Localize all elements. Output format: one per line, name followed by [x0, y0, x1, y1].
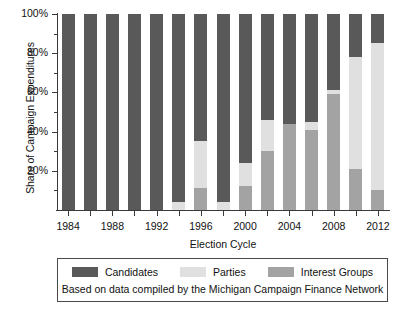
- x-axis-tick-label: 2000: [223, 220, 267, 232]
- x-axis-tick: [223, 211, 224, 216]
- y-axis-tick-label: 60%: [2, 86, 48, 96]
- x-axis-tick: [68, 211, 69, 216]
- bar-segment-parties: [305, 122, 318, 130]
- bar-segment-parties: [239, 163, 252, 187]
- y-axis-tick-label: 80%: [2, 47, 48, 57]
- y-axis-tick-label: 20%: [2, 165, 48, 175]
- legend-item-label: Interest Groups: [301, 266, 373, 278]
- plot-area: [57, 14, 389, 210]
- legend-swatch-icon: [268, 267, 294, 277]
- bar-segment-candidates: [62, 14, 75, 210]
- legend-swatch-icon: [180, 267, 206, 277]
- bar: [150, 14, 163, 210]
- bar-segment-candidates: [84, 14, 97, 210]
- bar: [371, 14, 384, 210]
- bar-segment-interest-groups: [327, 94, 340, 210]
- bar-segment-interest-groups: [239, 186, 252, 210]
- bar-segment-candidates: [217, 14, 230, 202]
- bar: [327, 14, 340, 210]
- bar: [283, 14, 296, 210]
- y-axis-tick-label: 40%: [2, 126, 48, 136]
- legend-caption: Based on data compiled by the Michigan C…: [58, 283, 387, 295]
- bar-segment-interest-groups: [261, 151, 274, 210]
- bar-segment-candidates: [371, 14, 384, 43]
- bar: [239, 14, 252, 210]
- x-axis-tick-label: 1984: [46, 220, 90, 232]
- bar: [194, 14, 207, 210]
- x-axis-tick-label: 1996: [179, 220, 223, 232]
- bar-segment-parties: [371, 43, 384, 190]
- bar-segment-parties: [217, 202, 230, 210]
- legend-entries: CandidatesPartiesInterest Groups: [58, 263, 387, 281]
- legend-item: Parties: [180, 266, 246, 278]
- bar: [128, 14, 141, 210]
- x-axis-tick: [356, 211, 357, 216]
- legend-item-label: Parties: [213, 266, 246, 278]
- bar-segment-candidates: [194, 14, 207, 141]
- legend-item: Interest Groups: [268, 266, 373, 278]
- bar: [172, 14, 185, 210]
- x-axis-tick: [334, 211, 335, 216]
- x-axis-tick-label: 2012: [356, 220, 400, 232]
- x-axis-tick: [179, 211, 180, 216]
- legend-item: Candidates: [72, 266, 158, 278]
- x-axis-title: Election Cycle: [57, 238, 389, 250]
- bar-segment-interest-groups: [349, 169, 362, 210]
- bar-segment-candidates: [261, 14, 274, 120]
- bar: [62, 14, 75, 210]
- bar-segment-candidates: [349, 14, 362, 57]
- bar-segment-candidates: [150, 14, 163, 210]
- bar-segment-candidates: [283, 14, 296, 124]
- x-axis-tick: [267, 211, 268, 216]
- bar-segment-interest-groups: [371, 190, 384, 210]
- bar-segment-candidates: [239, 14, 252, 163]
- x-axis-tick-label: 2008: [312, 220, 356, 232]
- bar-segment-candidates: [106, 14, 119, 210]
- bar-segment-parties: [172, 202, 185, 210]
- bar-segment-interest-groups: [305, 130, 318, 210]
- bar-segment-parties: [349, 57, 362, 169]
- x-axis-tick: [112, 211, 113, 216]
- bar: [217, 14, 230, 210]
- bar-segment-parties: [194, 141, 207, 188]
- x-axis-tick: [378, 211, 379, 216]
- x-axis-tick-label: 2004: [267, 220, 311, 232]
- bar: [261, 14, 274, 210]
- x-axis-tick: [201, 211, 202, 216]
- bar-segment-parties: [261, 120, 274, 151]
- bar: [106, 14, 119, 210]
- bar-segment-candidates: [128, 14, 141, 210]
- x-axis-tick: [289, 211, 290, 216]
- bar-segment-interest-groups: [283, 124, 296, 210]
- x-axis-tick: [90, 211, 91, 216]
- bar: [349, 14, 362, 210]
- chart-figure: Share of Campaign Expenditures 20%40%60%…: [0, 0, 400, 310]
- bar-segment-candidates: [305, 14, 318, 122]
- x-axis-tick: [312, 211, 313, 216]
- y-axis-tick-label: 100%: [2, 8, 48, 18]
- x-axis-tick: [157, 211, 158, 216]
- bar: [84, 14, 97, 210]
- bar-segment-candidates: [327, 14, 340, 90]
- legend-swatch-icon: [72, 267, 98, 277]
- x-axis-tick-label: 1988: [90, 220, 134, 232]
- legend: CandidatesPartiesInterest Groups Based o…: [57, 258, 388, 302]
- x-axis-tick: [134, 211, 135, 216]
- legend-item-label: Candidates: [105, 266, 158, 278]
- bar-segment-interest-groups: [194, 188, 207, 210]
- bar-segment-candidates: [172, 14, 185, 202]
- bar: [305, 14, 318, 210]
- x-axis-tick-label: 1992: [135, 220, 179, 232]
- x-axis-tick: [245, 211, 246, 216]
